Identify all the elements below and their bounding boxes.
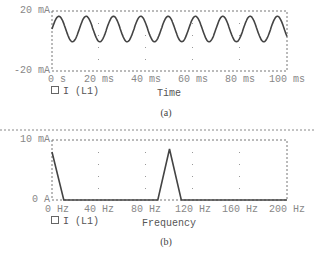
plot-a-xtick: 100 ms <box>269 74 305 85</box>
plot-b-axis-title: Frequency <box>142 218 196 229</box>
plot-b-ymax-label: 10 mA <box>2 134 50 145</box>
plot-a-ymax-label: 20 mA <box>2 5 50 16</box>
plot-a-xtick: 0 s <box>48 74 66 85</box>
plot-b-grid <box>98 152 240 189</box>
plot-b-xtick: 120 Hz <box>175 204 211 215</box>
plot-a-xtick: 20 ms <box>84 74 114 85</box>
plot-a-xtick: 40 ms <box>131 74 161 85</box>
legend-swatch-icon <box>51 86 59 94</box>
plot-b-trace <box>52 149 287 200</box>
plot-b-ymin-label: 0 A <box>2 194 50 205</box>
charts-canvas <box>0 0 316 255</box>
plot-b-legend: I (L1) <box>51 216 99 227</box>
plot-a-xtick: 60 ms <box>178 74 208 85</box>
plot-a-ymin-label: -20 mA <box>2 65 50 76</box>
plot-b-xtick: 40 Hz <box>84 204 114 215</box>
plot-a-trace <box>52 16 287 41</box>
plot-a-frame <box>52 11 287 71</box>
legend-swatch-icon <box>51 216 59 224</box>
plot-a-caption: (a) <box>160 107 171 118</box>
plot-b-caption: (b) <box>160 236 172 247</box>
plot-b-xtick: 160 Hz <box>222 204 258 215</box>
plot-b-xtick: 0 Hz <box>45 204 69 215</box>
plot-a-xtick: 80 ms <box>225 74 255 85</box>
plot-a-legend: I (L1) <box>51 86 99 97</box>
plot-a-axis-title: Time <box>157 88 181 99</box>
plot-b-xtick: 200 Hz <box>269 204 305 215</box>
plot-b-xtick: 80 Hz <box>131 204 161 215</box>
